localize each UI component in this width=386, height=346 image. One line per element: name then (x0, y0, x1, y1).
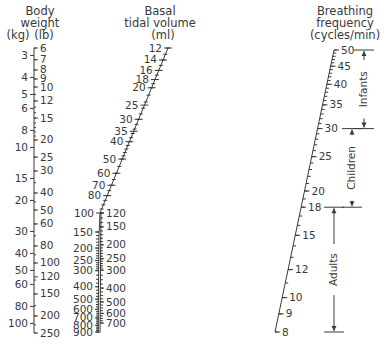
kg-tick-label: 15 (15, 172, 28, 184)
arrow-up-icon (332, 208, 337, 213)
lb-tick-label: 6 (40, 42, 47, 54)
tidal-volume-right-tick-label: 700 (106, 317, 126, 329)
tidal-volume-tick-label: 30 (119, 113, 132, 125)
tidal-volume-scale: Basal tidal volume (ml) 1214161820253035… (73, 4, 196, 338)
breathing-frequency-tick-label: 35 (330, 98, 343, 110)
tidal-volume-right-lower-ticks: 120150200250300400500600700 (100, 207, 126, 329)
age-group-brackets: InfantsChildrenAdults (324, 50, 374, 332)
kg-tick-label: 20 (15, 194, 28, 206)
tidal-volume-upper-ticks: 12141618202530354050607080100 (74, 42, 172, 219)
breathing-frequency-tick-label: 50 (341, 44, 354, 56)
breathing-frequency-tick-label: 8 (282, 326, 289, 338)
breathing-frequency-tick-label: 18 (308, 201, 321, 213)
tidal-volume-tick-label: 80 (88, 189, 101, 201)
kg-tick-label: 80 (15, 300, 28, 312)
kg-tick-label: 50 (15, 264, 28, 276)
tidal-volume-right-tick-label: 250 (106, 252, 126, 264)
tidal-volume-right-tick-label: 300 (106, 264, 126, 276)
tidal-volume-left-lower-ticks: 150200250300400500600700800900 (73, 226, 99, 338)
kg-tick-label: 100 (8, 317, 28, 329)
lb-ticks: 678910121520253040506080100120150200250 (34, 42, 60, 339)
tidal-volume-tick-label: 50 (103, 153, 116, 165)
tidal-volume-left-tick-label: 900 (73, 326, 93, 338)
breathing-frequency-tick-label: 45 (338, 60, 351, 72)
kg-tick-label: 40 (15, 247, 28, 259)
lb-tick-label: 80 (40, 239, 53, 251)
arrow-down-icon (362, 123, 367, 128)
breathing-frequency-tick-label: 25 (319, 150, 332, 162)
arrow-up-icon (362, 51, 367, 56)
lb-tick-label: 250 (40, 327, 60, 339)
kg-tick-label: 3 (21, 49, 28, 61)
kg-unit: (kg) (7, 28, 30, 42)
kg-tick-label: 5 (21, 88, 28, 100)
nomogram: Body weight (kg) (lb) 345681015203040506… (0, 0, 386, 346)
lb-tick-label: 50 (40, 204, 53, 216)
tidal-volume-right-tick-label: 400 (106, 282, 126, 294)
breathing-frequency-tick-label: 10 (289, 291, 302, 303)
lb-tick-label: 10 (40, 81, 53, 93)
age-group-children: Children (342, 129, 362, 208)
age-group-label: Children (346, 146, 358, 190)
body-weight-scale: Body weight (kg) (lb) 345681015203040506… (7, 4, 61, 339)
lb-tick-label: 30 (40, 164, 53, 176)
age-group-label: Infants (358, 71, 370, 107)
lb-unit: (lb) (34, 28, 53, 42)
tidal-volume-left-tick-label: 150 (73, 226, 93, 238)
arrow-down-icon (332, 326, 337, 331)
breathing-frequency-tick-label: 20 (312, 185, 325, 197)
tidal-volume-left-tick-label: 400 (73, 280, 93, 292)
lb-tick-label: 40 (40, 186, 53, 198)
age-group-infants: Infants (354, 50, 374, 129)
breathing-frequency-scale: Breathing frequency (cycles/min) 5045403… (275, 4, 380, 338)
kg-tick-label: 10 (15, 141, 28, 153)
tidal-volume-left-tick-label: 300 (73, 264, 93, 276)
tidal-volume-tick-label: 25 (125, 99, 138, 111)
age-group-adults: Adults (324, 207, 344, 332)
lb-tick-label: 200 (40, 309, 60, 321)
breathing-frequency-tick-label: 9 (286, 307, 293, 319)
tidal-volume-tick-label: 40 (110, 135, 123, 147)
breathing-frequency-tick-label: 12 (295, 263, 308, 275)
arrow-up-icon (350, 130, 355, 135)
tidal-volume-tick-label: 60 (97, 167, 110, 179)
lb-tick-label: 150 (40, 287, 60, 299)
lb-tick-label: 60 (40, 217, 53, 229)
kg-tick-label: 30 (15, 225, 28, 237)
lb-tick-label: 15 (40, 112, 53, 124)
breathing-frequency-unit: (cycles/min) (310, 28, 380, 42)
age-group-label: Adults (328, 253, 340, 286)
breathing-frequency-tick-label: 15 (302, 229, 315, 241)
arrow-down-icon (350, 201, 355, 206)
breathing-frequency-tick-label: 40 (334, 78, 347, 90)
lb-tick-label: 12 (40, 94, 53, 106)
kg-tick-label: 4 (21, 71, 28, 83)
tidal-volume-tick-label: 20 (132, 81, 145, 93)
kg-tick-label: 6 (21, 102, 28, 114)
kg-tick-label: 8 (21, 124, 28, 136)
tidal-volume-right-tick-label: 120 (106, 207, 126, 219)
breathing-frequency-tick-label: 30 (325, 122, 338, 134)
tidal-volume-right-tick-label: 200 (106, 238, 126, 250)
tidal-volume-tick-label: 12 (149, 42, 162, 54)
tidal-volume-tick-label: 100 (74, 207, 94, 219)
tidal-volume-unit: (ml) (151, 28, 174, 42)
kg-ticks: 345681015203040506080100 (8, 49, 34, 329)
lb-tick-label: 100 (40, 256, 60, 268)
lb-tick-label: 20 (40, 133, 53, 145)
tidal-volume-right-tick-label: 150 (106, 220, 126, 232)
breathing-frequency-ticks: 504540353025201815121098 (275, 44, 354, 338)
lb-tick-label: 120 (40, 270, 60, 282)
kg-tick-label: 60 (15, 278, 28, 290)
tidal-volume-right-tick-label: 500 (106, 296, 126, 308)
tidal-volume-left-tick-label: 200 (73, 242, 93, 254)
lb-tick-label: 25 (40, 151, 53, 163)
